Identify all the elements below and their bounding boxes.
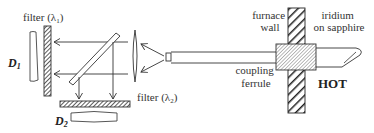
label-iridium-on-sapphire: iridium on sapphire [313,9,364,33]
filter-lambda2-icon [60,101,130,107]
label-detector-d2: D2 [54,114,68,129]
coupling-ferrule-icon [276,44,316,70]
label-furnace-wall: furnace wall [252,9,288,33]
pyrometer-diagram: filter (λ1) D1 filter (λ2) D2 furnace wa… [0,0,374,133]
fiber-tip-icon [166,53,171,61]
beam-splitter-icon [69,33,120,85]
ray-lower-from-fiber [141,60,164,72]
label-hot: HOT [318,76,347,91]
detector-d2-icon [71,112,117,123]
label-filter-lambda2: filter (λ2) [137,91,178,105]
optical-fiber [171,52,278,63]
detector-d1-icon [30,32,38,82]
label-filter-lambda1: filter (λ1) [23,11,64,25]
converging-lens-icon [133,30,137,82]
ray-upper-from-fiber [141,44,164,56]
label-coupling-ferrule: coupling ferrule [235,64,276,89]
sapphire-rod-icon [315,48,361,67]
filter-lambda1-icon [44,26,51,96]
label-detector-d1: D1 [7,56,21,71]
